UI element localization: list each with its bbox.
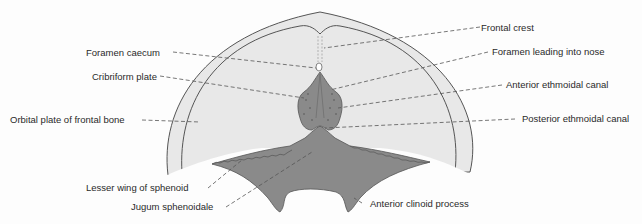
label-lesser-wing: Lesser wing of sphenoid [86, 182, 188, 193]
label-foramen-caecum: Foramen caecum [86, 47, 160, 58]
label-foramen-nose: Foramen leading into nose [492, 46, 605, 57]
anterior-cranial-fossa-diagram: Frontal crest Foramen caecum Foramen lea… [0, 0, 642, 224]
label-posterior-ethmoidal-canal: Posterior ethmoidal canal [522, 113, 629, 124]
foramen-caecum-shape [316, 63, 322, 71]
label-frontal-crest: Frontal crest [481, 22, 534, 33]
label-anterior-ethmoidal-canal: Anterior ethmoidal canal [506, 79, 608, 90]
label-jugum-sphenoidale: Jugum sphenoidale [131, 201, 213, 212]
label-cribriform-plate: Cribriform plate [92, 71, 157, 82]
label-anterior-clinoid: Anterior clinoid process [370, 198, 469, 209]
label-orbital-plate: Orbital plate of frontal bone [10, 114, 125, 125]
